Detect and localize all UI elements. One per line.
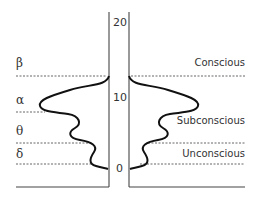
tick-label-0: 0 (116, 162, 123, 175)
brainwave-consciousness-diagram: 20 10 0 β α θ δ Conscious Subconscious U… (0, 0, 261, 202)
left-wave-curve (40, 76, 109, 169)
unconscious-label: Unconscious (182, 148, 245, 159)
tick-label-20: 20 (113, 16, 127, 29)
alpha-label: α (16, 93, 24, 107)
theta-label: θ (16, 124, 23, 138)
subconscious-label: Subconscious (177, 115, 245, 126)
tick-label-10: 10 (113, 91, 127, 104)
beta-label: β (16, 56, 23, 70)
delta-label: δ (16, 147, 23, 161)
left-dashed-lines (16, 76, 107, 164)
conscious-label: Conscious (194, 57, 245, 68)
